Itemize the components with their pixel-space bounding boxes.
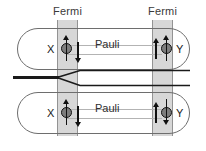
arrow-shaft <box>66 103 68 125</box>
incoming-beam <box>13 76 59 79</box>
spin-up-arrow-x-top <box>63 35 71 61</box>
spin-up-arrow-y-top <box>163 35 171 61</box>
arrow-shaft <box>77 106 79 123</box>
arrow-shaft <box>166 99 168 121</box>
spin-up-arrow-y-bottom-side <box>152 102 160 123</box>
arrowhead-icon <box>75 122 81 127</box>
fermi-label-right: Fermi <box>148 6 177 17</box>
fermi-label-left: Fermi <box>53 6 82 17</box>
arrow-shaft <box>155 42 157 59</box>
arrow-shaft <box>77 42 79 59</box>
site-label-y-bottom: Y <box>176 108 183 119</box>
arrow-shaft <box>66 39 68 61</box>
arrowhead-icon <box>163 120 169 125</box>
spin-up-arrow-x-bottom <box>63 99 71 125</box>
spin-up-arrow-y-top-side <box>152 38 160 59</box>
spin-down-arrow-x-bottom-side <box>74 106 82 127</box>
arrow-shaft <box>155 106 157 123</box>
spin-down-arrow-x-top-side <box>74 42 82 63</box>
spin-down-arrow-y-bottom <box>163 99 171 125</box>
site-label-x-bottom: X <box>47 108 54 119</box>
site-label-x-top: X <box>47 44 54 55</box>
arrow-shaft <box>166 39 168 61</box>
pauli-label-bottom: Pauli <box>95 103 119 114</box>
physics-schematic-diagram: Fermi Fermi Pauli X Y Pauli X Y <box>0 0 206 151</box>
arrowhead-icon <box>75 58 81 63</box>
pauli-label-top: Pauli <box>95 39 119 50</box>
site-label-y-top: Y <box>176 44 183 55</box>
